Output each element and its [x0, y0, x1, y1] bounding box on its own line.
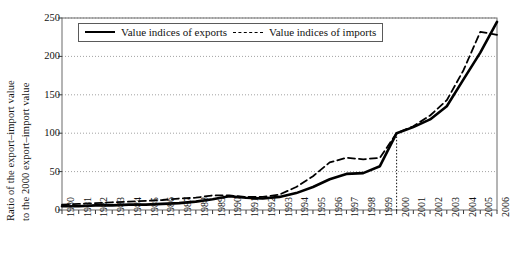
chart-figure: Ratio of the export–import value to the … — [0, 0, 515, 267]
legend-label-imports: Value indices of imports — [269, 26, 376, 38]
legend-swatch-exports — [85, 31, 115, 33]
legend-swatch-imports — [233, 32, 263, 33]
chart-legend: Value indices of exports Value indices o… — [78, 23, 383, 42]
legend-label-exports: Value indices of exports — [121, 26, 227, 38]
